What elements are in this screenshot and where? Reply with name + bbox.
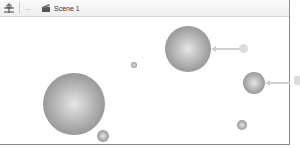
scene-window: ← Scene 1 <box>0 0 290 145</box>
callout-dot <box>239 44 248 53</box>
scene-clapper-icon <box>41 3 51 13</box>
callout-line <box>215 48 241 50</box>
toolbar-separator <box>19 2 20 14</box>
callout-line <box>269 82 290 84</box>
toolbar: ← Scene 1 <box>0 0 289 17</box>
callout-dot-offscreen <box>294 76 300 85</box>
move-anchor-icon <box>3 2 15 14</box>
sphere-top-right[interactable] <box>165 26 211 72</box>
back-arrow-icon: ← <box>24 3 33 13</box>
back-button[interactable]: ← <box>24 3 33 13</box>
scene-breadcrumb[interactable]: Scene 1 <box>54 5 80 12</box>
stage-canvas[interactable] <box>0 17 289 144</box>
sphere-small-bottom-right[interactable] <box>237 120 247 130</box>
sphere-tiny-center[interactable] <box>131 62 137 68</box>
move-tool-button[interactable] <box>2 1 16 15</box>
sphere-large[interactable] <box>43 73 105 135</box>
sphere-right[interactable] <box>243 72 265 94</box>
sphere-small-bottom-left[interactable] <box>97 130 109 142</box>
